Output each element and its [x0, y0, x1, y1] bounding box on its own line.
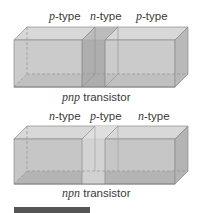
npn-transistor-block: [14, 126, 188, 184]
pnp-transistor-block: [14, 27, 188, 87]
npn-middle-slab-front: [82, 139, 105, 184]
pnp-label-left: p-type: [48, 9, 81, 23]
pnp-label-middle: n-type: [90, 9, 122, 23]
npn-caption: npn transistor: [62, 186, 131, 200]
npn-label-right: n-type: [138, 109, 170, 123]
transistor-diagram: p-type n-type p-type pnp transistor n-ty…: [0, 0, 197, 213]
bottom-bar: [14, 207, 90, 213]
npn-label-middle: p-type: [89, 109, 122, 123]
pnp-label-right: p-type: [135, 9, 168, 23]
pnp-caption: pnp transistor: [61, 90, 131, 104]
npn-label-left: n-type: [49, 109, 81, 123]
pnp-middle-slab-front: [82, 40, 105, 87]
